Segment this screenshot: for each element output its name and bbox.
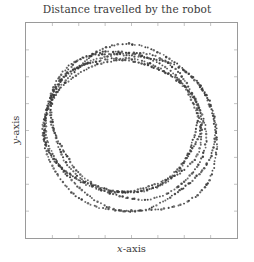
y-axis-label: y-axis [10, 116, 21, 145]
scatter-plot [26, 23, 237, 238]
x-axis-suffix: -axis [123, 243, 146, 254]
chart-title: Distance travelled by the robot [0, 3, 254, 15]
y-axis-suffix: -axis [10, 116, 21, 139]
trajectory-points [41, 42, 218, 213]
y-axis-var: y [10, 139, 21, 145]
plot-area [25, 22, 238, 239]
x-axis-label: x-axis [25, 243, 238, 254]
